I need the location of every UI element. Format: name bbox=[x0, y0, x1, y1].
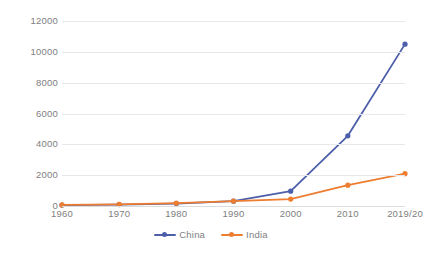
data-point-china-2019/20[interactable] bbox=[402, 42, 407, 47]
y-axis-tick-label: 6000 bbox=[4, 109, 58, 119]
legend-item-china[interactable]: China bbox=[154, 229, 205, 240]
series-line-china bbox=[62, 44, 405, 205]
x-axis-tick-label: 1990 bbox=[223, 208, 245, 220]
x-axis: 1960197019801990200020102019/20 bbox=[62, 208, 405, 224]
gridline-0 bbox=[62, 206, 405, 207]
gridline-2000 bbox=[62, 175, 405, 176]
data-point-india-2000[interactable] bbox=[288, 196, 293, 201]
gridline-10000 bbox=[62, 52, 405, 53]
plot-area bbox=[62, 21, 405, 206]
data-point-india-2010[interactable] bbox=[345, 183, 350, 188]
y-axis-tick-label: 8000 bbox=[4, 78, 58, 88]
y-axis: 020004000600080001000012000 bbox=[0, 0, 58, 257]
data-point-china-2010[interactable] bbox=[345, 133, 350, 138]
x-axis-tick-label: 2010 bbox=[337, 208, 359, 220]
gridline-8000 bbox=[62, 83, 405, 84]
y-axis-tick-label: 0 bbox=[4, 201, 58, 211]
x-axis-tick-label: 2000 bbox=[280, 208, 302, 220]
legend-label: China bbox=[179, 229, 205, 240]
y-axis-tick-label: 2000 bbox=[4, 170, 58, 180]
legend-label: India bbox=[246, 229, 268, 240]
y-axis-tick-label: 12000 bbox=[4, 16, 58, 26]
x-axis-tick-label: 1960 bbox=[51, 208, 73, 220]
gridline-4000 bbox=[62, 144, 405, 145]
chart-legend: ChinaIndia bbox=[0, 229, 422, 240]
y-axis-tick-label: 4000 bbox=[4, 139, 58, 149]
legend-swatch-icon bbox=[221, 230, 243, 239]
gridline-6000 bbox=[62, 114, 405, 115]
data-point-india-1990[interactable] bbox=[231, 198, 236, 203]
gridline-12000 bbox=[62, 21, 405, 22]
x-axis-tick-label: 2019/20 bbox=[387, 208, 423, 220]
legend-item-india[interactable]: India bbox=[221, 229, 268, 240]
y-axis-tick-label: 10000 bbox=[4, 47, 58, 57]
data-point-china-2000[interactable] bbox=[288, 189, 293, 194]
x-axis-tick-label: 1970 bbox=[108, 208, 130, 220]
x-axis-tick-label: 1980 bbox=[165, 208, 187, 220]
legend-swatch-icon bbox=[154, 230, 176, 239]
